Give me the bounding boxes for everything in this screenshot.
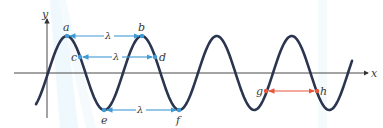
lambda-label-cd: λ	[112, 51, 119, 62]
measurement-a-b: λ	[65, 30, 144, 41]
x-axis-label: x	[371, 67, 378, 80]
measurement-e-f: λ	[102, 104, 181, 115]
point-h-label: h	[320, 85, 327, 98]
lambda-label-ef: λ	[136, 104, 143, 115]
point-c-label: c	[71, 51, 77, 64]
diagram-canvas: x y λ λ λ	[0, 0, 383, 128]
point-e-label: e	[101, 114, 108, 127]
measurement-c-d: λ	[78, 51, 157, 62]
measurement-g-h	[264, 89, 319, 93]
wavelength-diagram: x y λ λ λ	[0, 0, 383, 128]
background-decoration	[50, 0, 327, 128]
point-g-label: g	[256, 85, 263, 98]
point-a-label: a	[63, 21, 70, 34]
point-b-label: b	[138, 21, 145, 34]
lambda-label-ab: λ	[104, 30, 111, 41]
point-f-label: f	[175, 114, 182, 127]
point-d-label: d	[159, 51, 166, 64]
y-axis-label: y	[41, 8, 49, 21]
